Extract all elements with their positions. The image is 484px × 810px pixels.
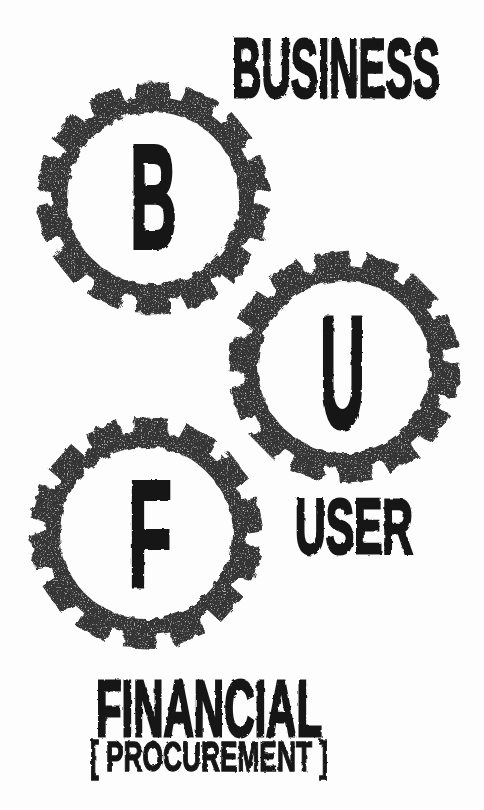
scanned-page: B U F BUSINESS USER FINANCIAL [ PROCUREM… [0,0,484,810]
gear-letter-business: B [130,114,177,279]
procurement-label: [ PROCUREMENT ] [90,733,328,780]
user-label: USER [295,483,413,569]
gear-letter-financial: F [128,448,172,618]
business-label: BUSINESS [232,22,440,115]
gear-letter-user: U [320,282,365,461]
buf-gears-illustration: B U F BUSINESS USER FINANCIAL [ PROCUREM… [0,0,484,810]
